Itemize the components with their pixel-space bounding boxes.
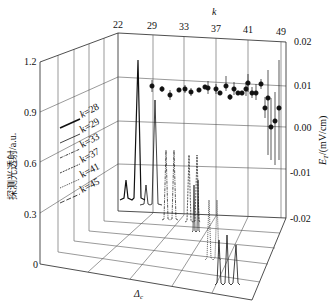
right-tick-0.00: 0.00 bbox=[294, 122, 312, 133]
top-tick-22: 22 bbox=[113, 19, 123, 30]
right-axis-ticks: 0.02 0.01 0.00 -0.01 -0.02 bbox=[290, 36, 312, 224]
floor-grid bbox=[40, 213, 286, 300]
legend-label-k28: =28 bbox=[82, 101, 101, 118]
left-tick-0.3: 0.3 bbox=[24, 209, 37, 220]
top-tick-41: 41 bbox=[243, 24, 253, 35]
right-tick-0.01: 0.01 bbox=[294, 80, 312, 91]
legend: k=28 k=29 k=33 k=37 k=41 k=45 bbox=[60, 101, 101, 203]
left-tick-0.9: 0.9 bbox=[24, 107, 37, 118]
right-tick-neg0.01: -0.01 bbox=[290, 167, 311, 178]
right-tick-0.02: 0.02 bbox=[294, 36, 312, 47]
scatter-et bbox=[150, 60, 281, 165]
spectrum-k29 bbox=[140, 100, 162, 205]
left-axis-label: 探测光透射/a.u. bbox=[6, 133, 18, 200]
top-tick-33: 33 bbox=[179, 21, 189, 32]
spectrum-k28 bbox=[120, 60, 145, 200]
left-tick-0: 0 bbox=[33, 259, 38, 270]
right-tick-neg0.02: -0.02 bbox=[290, 213, 311, 224]
left-wall-grid bbox=[40, 33, 118, 264]
legend-item-k45: k=45 bbox=[60, 175, 101, 203]
top-tick-49: 49 bbox=[276, 26, 286, 37]
left-axis-ticks: 1.2 0.9 0.6 0.3 0 bbox=[24, 56, 38, 270]
right-axis-label: ET/(mV/cm) bbox=[317, 116, 330, 166]
top-tick-29: 29 bbox=[147, 20, 157, 31]
left-tick-1.2: 1.2 bbox=[24, 56, 37, 67]
top-tick-37: 37 bbox=[211, 23, 221, 34]
chart: k=28 k=29 k=33 k=37 k=41 k=45 1.2 0.9 0.… bbox=[0, 0, 333, 305]
back-wall-grid bbox=[118, 33, 286, 218]
bottom-axis-label: Δc bbox=[133, 288, 144, 301]
top-axis-label: k bbox=[212, 6, 217, 17]
spectrum-k33 bbox=[162, 150, 178, 220]
left-tick-0.6: 0.6 bbox=[24, 158, 37, 169]
